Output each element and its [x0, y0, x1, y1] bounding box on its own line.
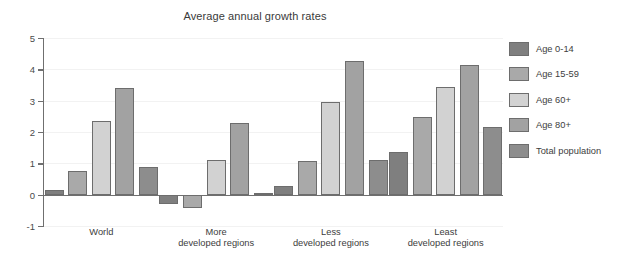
group-label-line: Least [408, 227, 484, 239]
group-label-line: Less [293, 227, 369, 239]
legend-item[interactable]: Age 0-14 [509, 36, 627, 62]
bar [460, 65, 479, 195]
gridline [44, 163, 503, 164]
y-tick-label: 2 [16, 127, 35, 138]
legend-swatch-icon [509, 93, 529, 107]
y-tick-label: -1 [16, 221, 35, 232]
bar [369, 160, 388, 195]
bar [159, 195, 178, 204]
gridline [44, 38, 503, 39]
bar [68, 171, 87, 195]
legend-item[interactable]: Age 15-59 [509, 62, 627, 88]
bar [254, 193, 273, 195]
y-tick-label: 0 [16, 189, 35, 200]
legend-item[interactable]: Age 80+ [509, 113, 627, 139]
bar [115, 88, 134, 195]
bar [183, 195, 202, 208]
bar [92, 121, 111, 195]
bar [413, 117, 432, 194]
legend-item-label: Total population [536, 146, 601, 156]
group-label-line: developed regions [178, 238, 254, 250]
gridline [44, 132, 503, 133]
bar [436, 87, 455, 195]
bar [139, 167, 158, 195]
plot-area [44, 38, 503, 226]
y-tick-mark [38, 69, 44, 70]
x-axis-group-label: Leastdeveloped regions [408, 227, 484, 250]
legend-item-label: Age 15-59 [536, 69, 579, 79]
growth-rates-chart: Average annual growth rates percent -101… [0, 0, 629, 267]
y-tick-mark [38, 101, 44, 102]
bar [321, 102, 340, 194]
legend-item-label: Age 80+ [536, 120, 571, 130]
bar [230, 123, 249, 194]
y-tick-mark [38, 195, 44, 196]
legend-item-label: Age 0-14 [536, 44, 574, 54]
bar [274, 186, 293, 194]
legend-swatch-icon [509, 144, 529, 158]
bar [298, 161, 317, 195]
bar [483, 127, 502, 195]
group-label-line: World [89, 227, 113, 239]
legend-swatch-icon [509, 42, 529, 56]
x-axis-group-label: Lessdeveloped regions [293, 227, 369, 250]
y-tick-mark [38, 38, 44, 39]
group-label-line: More [178, 227, 254, 239]
y-tick-mark [38, 226, 44, 227]
y-tick-label: 4 [16, 64, 35, 75]
gridline [44, 101, 503, 102]
y-tick-label: 5 [16, 33, 35, 44]
x-axis-group-label: World [89, 227, 113, 239]
gridline [44, 69, 503, 70]
y-tick-label: 3 [16, 95, 35, 106]
chart-legend: Age 0-14Age 15-59Age 60+Age 80+Total pop… [509, 36, 627, 164]
chart-title: Average annual growth rates [0, 10, 510, 22]
bar [207, 160, 226, 194]
legend-swatch-icon [509, 118, 529, 132]
bar [345, 61, 364, 195]
bar [389, 152, 408, 195]
legend-swatch-icon [509, 67, 529, 81]
y-tick-mark [38, 163, 44, 164]
group-label-line: developed regions [408, 238, 484, 250]
legend-item-label: Age 60+ [536, 95, 571, 105]
group-label-line: developed regions [293, 238, 369, 250]
bar [45, 190, 64, 195]
y-tick-label: 1 [16, 158, 35, 169]
legend-item[interactable]: Age 60+ [509, 87, 627, 113]
legend-item[interactable]: Total population [509, 138, 627, 164]
y-tick-mark [38, 132, 44, 133]
x-axis-group-label: Moredeveloped regions [178, 227, 254, 250]
